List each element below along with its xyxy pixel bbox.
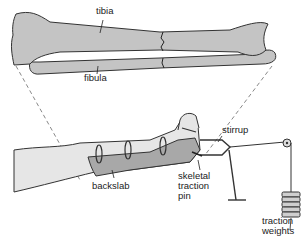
stirrup [200, 140, 230, 155]
traction-diagram [0, 0, 308, 240]
label-tibia: tibia [96, 6, 113, 16]
foot [178, 113, 199, 130]
stand [229, 150, 236, 200]
projection-line-right [205, 66, 272, 155]
label-backslab: backslab [92, 181, 130, 191]
fibula-bone [29, 50, 275, 74]
label-traction-weights: traction weights [262, 216, 294, 236]
traction-weights [282, 192, 300, 217]
label-fibula: fibula [84, 73, 107, 83]
traction-cord [230, 142, 285, 147]
label-stirrup: stirrup [222, 125, 248, 135]
label-skeletal-traction-pin: skeletal traction pin [178, 171, 210, 201]
